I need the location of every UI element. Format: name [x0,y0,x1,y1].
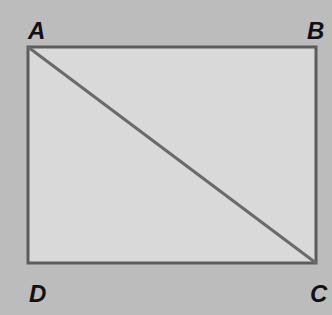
vertex-label-c: C [310,282,327,306]
rectangle-diagram [0,0,332,315]
vertex-label-d: D [29,282,46,306]
vertex-label-a: A [28,19,45,43]
vertex-label-b: B [307,19,324,43]
